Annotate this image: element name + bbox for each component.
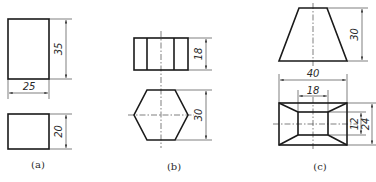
dim-30: 30 — [193, 109, 204, 122]
figure-a: 35 25 20 (a) — [8, 19, 72, 170]
figure-c-top-view: 40 18 12 24 — [273, 68, 376, 151]
dim-24: 24 — [360, 118, 371, 131]
figure-b-label: (b) — [167, 161, 181, 172]
figure-b: 18 30 (b) — [128, 31, 212, 172]
dim-30-c: 30 — [349, 28, 360, 41]
figure-c-label: (c) — [313, 161, 327, 172]
figure-b-front-view: 18 — [134, 38, 212, 70]
figure-b-top-view: 30 — [128, 90, 212, 140]
dim-18-c: 18 — [307, 85, 320, 96]
dim-35: 35 — [53, 43, 64, 56]
figure-a-front-view: 35 25 — [8, 19, 72, 99]
dim-20: 20 — [53, 125, 64, 138]
orthographic-drawings: 35 25 20 (a) 18 — [0, 0, 376, 182]
figure-a-label: (a) — [31, 159, 45, 170]
dim-18: 18 — [193, 48, 204, 61]
figure-c-front-view: 30 — [279, 3, 368, 66]
dim-12: 12 — [349, 118, 360, 131]
figure-c: 30 40 18 12 — [273, 3, 376, 172]
dim-25: 25 — [23, 81, 36, 92]
figure-a-top-view: 20 — [8, 114, 72, 149]
dim-40: 40 — [307, 68, 320, 79]
